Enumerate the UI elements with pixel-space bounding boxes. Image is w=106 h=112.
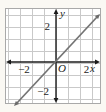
x-axis-tick-label-neg2: −2 <box>12 64 36 75</box>
x-axis-right-arrowhead-icon <box>95 60 100 65</box>
x-axis-left-arrowhead-icon <box>6 60 11 65</box>
x-axis-label: x <box>90 63 95 74</box>
y-axis-top-arrowhead-icon <box>54 9 59 14</box>
y-axis-label: y <box>60 8 65 19</box>
graph-figure: 2 −2 O 2 x y −2 <box>0 0 106 112</box>
line-y-equals-x <box>17 17 98 104</box>
y-axis-bottom-arrowhead-icon <box>54 98 59 103</box>
origin-label: O <box>58 63 66 74</box>
axes-and-line-svg <box>0 0 106 112</box>
y-axis-tick-label-neg2: −2 <box>30 86 49 97</box>
y-axis-tick-label-2: 2 <box>36 21 50 32</box>
